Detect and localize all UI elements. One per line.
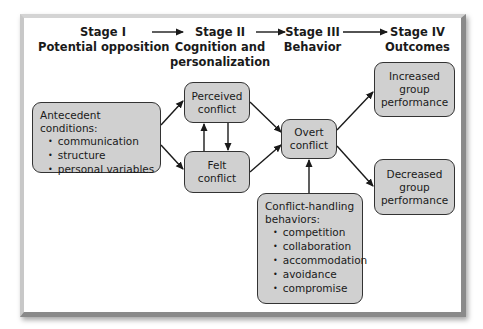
increased-line-1: Increased bbox=[389, 70, 440, 83]
conflict-handling-list: competition collaboration accommodation … bbox=[265, 226, 367, 296]
felt-line-1: Felt bbox=[208, 159, 227, 172]
behavior-item-accommodation: accommodation bbox=[273, 254, 367, 268]
overt-to-decreased-arrow bbox=[337, 146, 373, 186]
behavior-item-avoidance: avoidance bbox=[273, 268, 367, 282]
decreased-performance-node: Decreased group performance bbox=[374, 159, 455, 215]
perceived-line-1: Perceived bbox=[192, 90, 243, 103]
behavior-item-compromise: compromise bbox=[273, 282, 367, 296]
conflict-handling-heading-2: behaviors: bbox=[265, 213, 320, 226]
increased-performance-node: Increased group performance bbox=[374, 62, 455, 117]
antecedent-item-structure: structure bbox=[48, 149, 154, 163]
felt-conflict-node: Felt conflict bbox=[184, 151, 250, 193]
antecedent-heading: Antecedent conditions: bbox=[40, 109, 160, 135]
increased-line-3: performance bbox=[381, 96, 448, 109]
antecedent-item-personal-variables: personal variables bbox=[48, 163, 154, 177]
overt-conflict-node: Overt conflict bbox=[281, 119, 337, 159]
antecedent-conditions-node: Antecedent conditions: communication str… bbox=[32, 102, 161, 173]
behavior-item-collaboration: collaboration bbox=[273, 240, 367, 254]
behavior-item-competition: competition bbox=[273, 226, 367, 240]
perceived-line-2: conflict bbox=[198, 103, 236, 116]
decreased-line-3: performance bbox=[381, 194, 448, 207]
decreased-line-2: group bbox=[399, 181, 430, 194]
antecedent-item-communication: communication bbox=[48, 135, 154, 149]
antecedent-to-perceived-arrow bbox=[161, 101, 183, 125]
overt-line-1: Overt bbox=[294, 126, 323, 139]
perceived-to-overt-arrow bbox=[250, 102, 281, 132]
antecedent-list: communication structure personal variabl… bbox=[40, 135, 154, 177]
felt-to-overt-arrow bbox=[250, 145, 281, 172]
felt-line-2: conflict bbox=[198, 172, 236, 185]
perceived-conflict-node: Perceived conflict bbox=[184, 82, 250, 123]
conflict-handling-node: Conflict-handling behaviors: competition… bbox=[257, 193, 363, 304]
decreased-line-1: Decreased bbox=[387, 168, 443, 181]
overt-line-2: conflict bbox=[290, 139, 328, 152]
conflict-handling-heading-1: Conflict-handling bbox=[265, 200, 354, 213]
antecedent-to-felt-arrow bbox=[161, 145, 183, 169]
overt-to-increased-arrow bbox=[337, 92, 373, 130]
increased-line-2: group bbox=[399, 83, 430, 96]
